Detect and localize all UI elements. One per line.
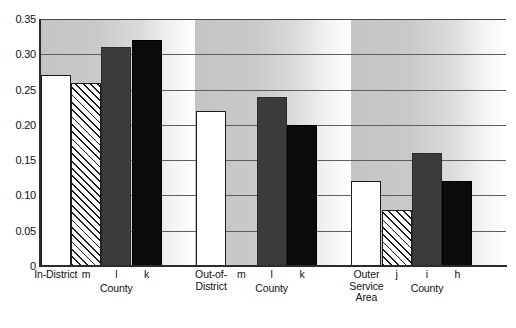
x-tick-label: k [299,269,304,281]
bar [382,210,412,266]
x-tick-label-line: In-District [34,269,77,281]
x-axis: In-DistrictmlkCountyOut-of-DistrictmlkCo… [40,269,506,328]
group-caption: County [255,283,288,295]
y-tick-label: 0.10 [2,190,36,201]
y-tick-label: 0 [2,261,36,272]
y-tick-label: 0.15 [2,155,36,166]
x-tick-label-line: m [82,269,91,281]
x-tick-label: Out-of-District [195,269,227,292]
x-tick-label-line: District [195,281,227,293]
y-axis: 0.350.300.250.200.150.100.050 [0,0,36,328]
x-tick-label: l [115,269,117,281]
group-caption: County [411,283,444,295]
y-tick-label: 0.35 [2,14,36,25]
x-tick-label-line: Outer [349,269,383,281]
plot-area [40,19,506,266]
bar-chart: 0.350.300.250.200.150.100.050 In-Distric… [0,0,516,328]
x-tick-label: m [237,269,246,281]
bar [132,40,162,266]
x-tick-label-line: k [299,269,304,281]
x-tick-label-line: l [271,269,273,281]
x-tick-label: i [426,269,428,281]
x-tick-label: m [82,269,91,281]
y-tick-label: 0.20 [2,119,36,130]
y-axis-line [39,19,41,267]
gridline [40,19,506,20]
x-tick-label: OuterServiceArea [349,269,383,304]
x-tick-label-line: j [396,269,398,281]
bar [41,75,71,266]
bar [287,125,317,266]
y-tick-label: 0.25 [2,84,36,95]
x-tick-label-line: Out-of- [195,269,227,281]
x-axis-line [40,265,507,267]
x-tick-label: k [144,269,149,281]
x-tick-label: j [396,269,398,281]
x-tick-label: In-District [34,269,77,281]
x-tick-label-line: k [144,269,149,281]
y-tick-label: 0.05 [2,225,36,236]
x-tick-label: h [454,269,460,281]
bar [196,111,226,266]
bar [257,97,287,266]
bar [412,153,442,266]
x-tick-label-line: m [237,269,246,281]
x-tick-label-line: i [426,269,428,281]
bar [101,47,131,266]
bar [442,181,472,266]
y-tick-label: 0.30 [2,49,36,60]
bar [351,181,381,266]
group-caption: County [100,283,133,295]
x-tick-label-line: l [115,269,117,281]
x-tick-label-line: h [454,269,460,281]
x-tick-label: l [271,269,273,281]
x-tick-label-line: Area [349,292,383,304]
bar [71,83,101,266]
